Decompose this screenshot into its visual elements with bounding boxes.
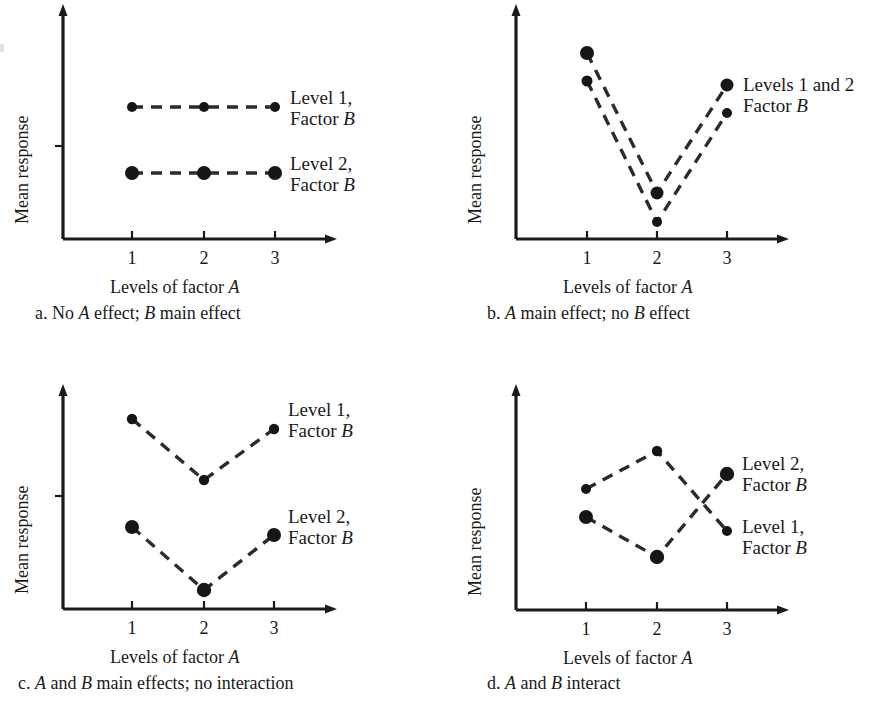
x-axis-arrowhead-a [325,235,337,244]
data-point [197,583,211,597]
legend-line-1: Level 2, [288,506,353,527]
series-a-level2 [125,166,282,180]
x-tick-label-3-b: 3 [715,248,739,268]
legend-line-1: Level 1, [288,399,353,420]
caption-italic: A [505,303,516,323]
legend-d-item-2: Level 1, Factor B [742,516,807,559]
legend-line-2-prefix: Factor [743,95,796,116]
caption-part: c. [18,673,35,693]
data-point [581,484,591,494]
data-point [127,102,137,112]
data-point [197,166,211,180]
y-axis-label-c: Mean response [12,486,32,594]
x-axis-label-italic: A [228,647,239,667]
caption-part: and [516,673,551,693]
data-point [722,108,732,118]
panel-a: Mean response 1 2 3 Levels of factor A L… [0,0,444,343]
caption-part: effect; [90,303,145,323]
legend-c-item-1: Level 1, Factor B [288,399,353,442]
legend-line-1: Level 1, [742,516,807,537]
legend-a-item-1: Level 1, Factor B [290,87,355,130]
legend-line-2: Factor B [742,537,807,558]
x-axis-label-italic: A [681,277,692,297]
legend-b-item-1: Levels 1 and 2 Factor B [743,74,854,117]
legend-line-2-italic: B [796,95,808,116]
legend-line-2-prefix: Factor [742,537,795,558]
x-axis-label-italic: A [228,277,239,297]
caption-part: b. [487,303,505,323]
data-point [721,79,734,92]
x-axis-label-b: Levels of factor A [563,277,692,297]
legend-line-1: Level 2, [290,153,355,174]
series-d-level1 [581,446,732,536]
series-c-level2 [125,520,281,597]
data-point [651,187,664,200]
caption-d: d. A and B interact [487,673,620,693]
caption-part: and [46,673,81,693]
legend-line-2: Factor B [290,108,355,129]
y-axis-arrowhead-c [59,384,68,396]
y-axis-arrowhead-a [59,4,68,16]
x-axis-label-d: Levels of factor A [563,648,692,668]
data-point [199,102,209,112]
legend-line-2-italic: B [343,108,355,129]
data-point [579,510,593,524]
data-point [582,76,593,87]
legend-line-2-italic: B [341,527,353,548]
data-point [652,217,662,227]
caption-part: main effects; no interaction [92,673,294,693]
legend-line-2-italic: B [795,474,807,495]
y-axis-label-d: Mean response [465,488,485,596]
x-tick-label-1-c: 1 [120,618,144,638]
y-axis-label-a: Mean response [12,116,32,224]
caption-part: main effect; no [516,303,634,323]
legend-line-2-prefix: Factor [290,108,343,129]
legend-line-2: Factor B [288,527,353,548]
panel-c: Mean response 1 2 3 Levels of factor A L… [0,370,444,713]
series-b-lower [582,76,733,228]
legend-line-1: Level 1, [290,87,355,108]
legend-c-item-2: Level 2, Factor B [288,506,353,549]
legend-line-2: Factor B [742,474,807,495]
axes-d [512,384,790,615]
y-axis-arrowhead-b [512,4,521,16]
data-point [650,550,664,564]
x-axis-label-text: Levels of factor [110,277,228,297]
caption-a: a. No A effect; B main effect [35,303,241,323]
legend-line-2-italic: B [795,537,807,558]
x-axis-label-text: Levels of factor [110,647,228,667]
series-d-level2 [579,467,734,564]
legend-line-2: Factor B [743,95,854,116]
series-a-level1 [127,102,280,112]
x-tick-label-1-d: 1 [574,619,598,639]
caption-part: effect [645,303,690,323]
caption-italic: B [634,303,645,323]
caption-italic: B [144,303,155,323]
series-b-upper [580,46,734,200]
x-axis-label-text: Levels of factor [563,277,681,297]
y-axis-arrowhead-d [512,384,521,396]
data-point [199,475,209,485]
data-point [652,446,662,456]
legend-line-2-prefix: Factor [288,527,341,548]
x-axis-label-c: Levels of factor A [110,647,239,667]
panel-b: Mean response 1 2 3 Levels of factor A L… [440,0,884,343]
data-point [722,526,732,536]
x-axis-arrowhead-c [325,605,337,614]
legend-line-1: Levels 1 and 2 [743,74,854,95]
caption-b: b. A main effect; no B effect [487,303,690,323]
legend-line-2-prefix: Factor [288,420,341,441]
caption-c: c. A and B main effects; no interaction [18,673,294,693]
caption-part: interact [562,673,620,693]
x-tick-label-3-a: 3 [263,248,287,268]
x-tick-label-2-d: 2 [645,619,669,639]
caption-part: main effect [155,303,241,323]
legend-line-2: Factor B [288,420,353,441]
data-point [720,467,734,481]
legend-line-2-italic: B [341,420,353,441]
x-tick-label-2-a: 2 [192,248,216,268]
x-axis-label-text: Levels of factor [563,648,681,668]
legend-line-2-prefix: Factor [742,474,795,495]
data-point [269,424,279,434]
data-point [268,166,282,180]
